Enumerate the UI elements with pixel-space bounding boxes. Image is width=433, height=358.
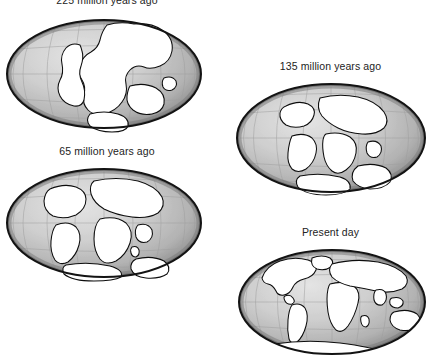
landmasses-135ma bbox=[280, 95, 391, 195]
caption-135ma: 135 million years ago bbox=[228, 60, 433, 72]
globe-svg-present-day bbox=[236, 248, 430, 358]
globe-present-day bbox=[236, 248, 430, 358]
panel-65-million-years-ago: 65 million years ago bbox=[4, 145, 210, 295]
globe-svg-225ma bbox=[4, 18, 210, 132]
caption-225ma: 225 million years ago bbox=[4, 0, 210, 6]
panel-225-million-years-ago: 225 million years ago bbox=[4, 0, 210, 146]
panel-present-day: Present day bbox=[228, 226, 433, 358]
globe-65ma bbox=[4, 167, 210, 281]
globe-135ma bbox=[234, 82, 430, 196]
globe-225ma bbox=[4, 18, 210, 132]
globe-svg-135ma bbox=[234, 82, 430, 196]
continental-drift-figure: 225 million years ago bbox=[0, 0, 433, 358]
globe-svg-65ma bbox=[4, 167, 210, 281]
caption-65ma: 65 million years ago bbox=[4, 145, 210, 157]
caption-present-day: Present day bbox=[228, 226, 433, 238]
panel-135-million-years-ago: 135 million years ago bbox=[228, 60, 433, 210]
